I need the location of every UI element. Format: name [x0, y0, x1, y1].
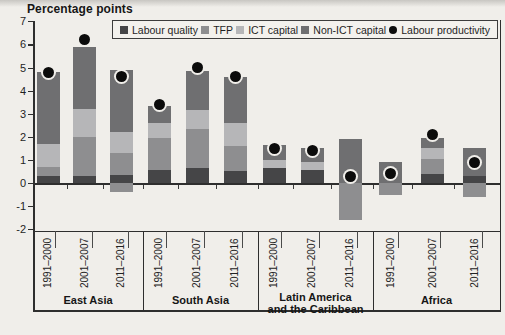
segment-ict-capital--bar-east-asia-2011-2016	[110, 132, 133, 153]
y-tick-label: 7	[6, 16, 26, 26]
labour-productivity-dot--bar-latin-america-and-the-caribbean-2001-2007	[307, 145, 318, 156]
group-separator	[258, 231, 259, 310]
y-tick-label: 3	[6, 109, 26, 119]
labour-productivity-dot--bar-east-asia-2001-2007	[79, 34, 90, 45]
x-minor-tick	[258, 185, 259, 189]
period-tick	[204, 231, 205, 248]
period-label--bar-east-asia-2001-2007: 2001–2007	[78, 238, 89, 288]
segment-negative-tfp--bar-latin-america-and-the-caribbean-2011-2016	[339, 183, 362, 220]
x-minor-tick	[454, 185, 455, 189]
labour-productivity-dot--bar-south-asia-2001-2007	[192, 62, 203, 73]
x-minor-tick	[178, 185, 179, 189]
period-tick	[440, 231, 441, 248]
period-tick	[242, 231, 243, 248]
segment-tfp--bar-south-asia-1991-2000	[148, 138, 171, 170]
segment-non-ict-capital--bar-south-asia-2001-2007	[186, 71, 209, 110]
y-tick	[28, 206, 33, 207]
segment-labour-quality--bar-east-asia-1991-2000	[37, 176, 60, 183]
labour-productivity-dot--bar-east-asia-1991-2000	[43, 67, 54, 78]
labour-productivity-dot-icon	[389, 26, 397, 34]
segment-ict-capital--bar-africa-2001-2007	[421, 148, 444, 158]
segment-labour-quality--bar-south-asia-2011-2016	[224, 171, 247, 183]
group-label-south-asia: South Asia	[172, 295, 229, 307]
segment-ict-capital--bar-latin-america-and-the-caribbean-2001-2007	[301, 162, 324, 170]
y-tick-label: 6	[6, 39, 26, 49]
segment-non-ict-capital--bar-east-asia-1991-2000	[37, 72, 60, 144]
x-minor-tick	[412, 185, 413, 189]
y-tick	[28, 160, 33, 161]
period-tick	[92, 231, 93, 248]
period-label--bar-east-asia-2011-2016: 2011–2016	[115, 238, 126, 287]
productivity-decomposition-figure: Percentage points Labour qualityTFPICT c…	[0, 0, 505, 335]
period-tick	[357, 231, 358, 248]
legend-label: TFP	[213, 24, 233, 36]
segment-tfp--bar-east-asia-2001-2007	[73, 137, 96, 176]
period-label--bar-africa-1991-2000: 1991–2000	[384, 238, 395, 288]
segment-negative-tfp--bar-africa-2011-2016	[463, 183, 486, 197]
period-tick	[55, 231, 56, 248]
segment-non-ict-capital--bar-south-asia-2011-2016	[224, 77, 247, 123]
segment-labour-quality--bar-east-asia-2011-2016	[110, 175, 133, 183]
y-tick-label: 0	[6, 178, 26, 188]
legend-label: Labour quality	[132, 24, 198, 36]
period-label--bar-latin-america-and-the-caribbean-2001-2007: 2001–2007	[306, 238, 317, 288]
period-tick	[319, 231, 320, 248]
y-tick	[28, 114, 33, 115]
period-tick	[398, 231, 399, 248]
legend-item-labour-productivity: Labour productivity	[389, 24, 490, 36]
y-tick	[28, 44, 33, 45]
y-tick	[28, 183, 33, 184]
segment-negative-tfp--bar-east-asia-2011-2016	[110, 183, 133, 192]
y-tick	[28, 91, 33, 92]
x-minor-tick	[293, 185, 294, 189]
legend-label: Labour productivity	[401, 24, 490, 36]
non-ict-capital-swatch-icon	[301, 26, 309, 34]
period-label--bar-africa-2001-2007: 2001–2007	[426, 238, 437, 288]
segment-labour-quality--bar-south-asia-2001-2007	[186, 168, 209, 183]
segment-tfp--bar-east-asia-2011-2016	[110, 153, 133, 175]
period-label--bar-latin-america-and-the-caribbean-2011-2016: 2011–2016	[344, 238, 355, 287]
segment-ict-capital--bar-south-asia-2011-2016	[224, 123, 247, 146]
period-tick	[128, 231, 129, 248]
labour-productivity-dot--bar-africa-2011-2016	[469, 157, 480, 168]
segment-ict-capital--bar-south-asia-2001-2007	[186, 110, 209, 128]
x-minor-tick	[67, 185, 68, 189]
period-tick	[166, 231, 167, 248]
plot-bottom-line	[33, 231, 500, 232]
chart-legend: Labour qualityTFPICT capitalNon-ICT capi…	[112, 20, 498, 39]
period-label--bar-south-asia-1991-2000: 1991–2000	[153, 238, 164, 288]
period-label--bar-east-asia-1991-2000: 1991–2000	[42, 238, 53, 288]
legend-item-tfp: TFP	[201, 24, 233, 36]
segment-ict-capital--bar-east-asia-2001-2007	[73, 109, 96, 137]
labour-productivity-dot--bar-latin-america-and-the-caribbean-2011-2016	[345, 171, 356, 182]
labour-productivity-dot--bar-latin-america-and-the-caribbean-1991-2000	[269, 143, 280, 154]
segment-labour-quality--bar-africa-2001-2007	[421, 174, 444, 183]
legend-item-non-ict-capital: Non-ICT capital	[301, 24, 386, 36]
y-tick-label: 2	[6, 132, 26, 142]
y-tick	[28, 21, 33, 22]
labour-productivity-dot--bar-south-asia-2011-2016	[230, 71, 241, 82]
group-separator	[373, 231, 374, 310]
y-tick	[28, 137, 33, 138]
segment-ict-capital--bar-east-asia-1991-2000	[37, 144, 60, 167]
x-minor-tick	[216, 185, 217, 189]
group-label-africa: Africa	[421, 295, 452, 307]
segment-labour-quality--bar-latin-america-and-the-caribbean-1991-2000	[263, 168, 286, 183]
x-minor-tick	[373, 185, 374, 189]
x-minor-tick	[331, 185, 332, 189]
period-tick	[281, 231, 282, 248]
figure-right-border	[500, 20, 501, 310]
y-tick	[28, 68, 33, 69]
segment-tfp--bar-south-asia-2001-2007	[186, 129, 209, 168]
group-label-east-asia: East Asia	[63, 295, 112, 307]
labour-quality-swatch-icon	[120, 26, 128, 34]
segment-non-ict-capital--bar-east-asia-2001-2007	[73, 47, 96, 109]
period-label--bar-south-asia-2001-2007: 2001–2007	[191, 238, 202, 288]
labour-productivity-dot--bar-south-asia-1991-2000	[154, 99, 165, 110]
legend-label: Non-ICT capital	[313, 24, 386, 36]
segment-negative-tfp--bar-africa-1991-2000	[379, 183, 402, 195]
period-label--bar-south-asia-2011-2016: 2011–2016	[229, 238, 240, 287]
y-tick	[28, 229, 33, 230]
legend-item-labour-quality: Labour quality	[120, 24, 198, 36]
y-axis-line	[33, 21, 35, 310]
